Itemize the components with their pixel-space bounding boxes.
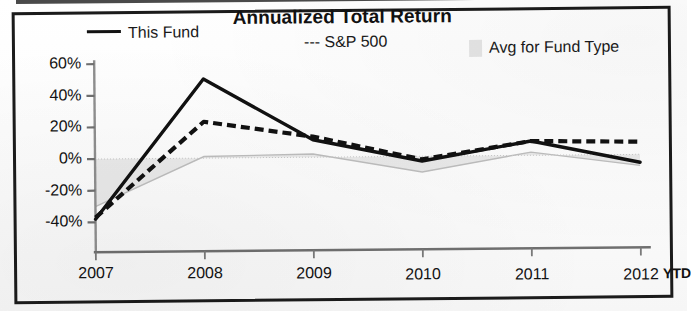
y-axis-label-0: 0% xyxy=(20,149,82,168)
x-axis-label-2011: 2011 xyxy=(497,265,567,284)
y-axis-label-neg40: -40% xyxy=(20,212,82,231)
y-axis-label-neg20: -20% xyxy=(20,181,82,200)
plot-area: 60% 40% 20% 0% -20% -40% 2007 2008 2009 … xyxy=(0,0,688,311)
y-axis-label-60: 60% xyxy=(19,54,81,73)
x-axis-label-ytd: YTD xyxy=(663,265,691,281)
x-axis-label-2009: 2009 xyxy=(279,264,349,283)
y-axis-label-40: 40% xyxy=(19,86,81,105)
y-axis-label-20: 20% xyxy=(20,118,82,137)
chart-content: Annualized Total Return This Fund --- S&… xyxy=(0,0,688,311)
x-axis-label-2008: 2008 xyxy=(170,264,240,283)
x-axis-label-2007: 2007 xyxy=(61,264,131,283)
x-axis-label-2010: 2010 xyxy=(388,265,458,284)
